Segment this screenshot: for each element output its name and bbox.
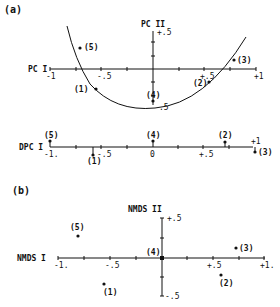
- pc-point-2-label: (2): [193, 79, 207, 88]
- panel-b-label: (b): [12, 185, 30, 196]
- dpc1-tick-p05: +.5: [199, 150, 214, 159]
- dpc-point-4-label: (4): [146, 131, 160, 140]
- nmds-point-3-label: (3): [239, 244, 253, 253]
- nmds1-tick-p1: +1.: [260, 261, 274, 270]
- nmds2-tick-p05: +.5: [167, 214, 182, 223]
- dpc1-tick-0: 0: [150, 150, 155, 159]
- nmds2-tick-m05: -.5: [165, 292, 180, 301]
- nmds-point-3: [234, 246, 237, 249]
- nmds-point-5-label: (5): [70, 223, 84, 232]
- dpc-plot: DPC I -1. -.5 0 +.5 +1 (5) (1) (4) (2) (…: [19, 131, 272, 166]
- dpc-point-2-label: (2): [218, 131, 232, 140]
- pc-point-1: [94, 87, 97, 90]
- pc-plot: PC I -1 -.5 +.5 +1 PC II +.5 .5 (5) (1) …: [28, 20, 264, 112]
- panel-a-label: (a): [4, 4, 22, 15]
- pc1-tick-m05: -.5: [97, 72, 112, 81]
- nmds-point-4-label: (4): [146, 248, 160, 257]
- pc-point-5-label: (5): [84, 43, 98, 52]
- nmds1-tick-p05: +.5: [207, 261, 222, 270]
- dpc-point-3: [253, 150, 256, 153]
- nmds-point-1: [102, 282, 105, 285]
- dpc1-axis-label: DPC I: [19, 143, 43, 152]
- nmds1-axis-label: NMDS I: [17, 254, 46, 263]
- nmds1-tick-m05: -.5: [105, 261, 120, 270]
- pc-point-3-label: (3): [237, 56, 251, 65]
- nmds-point-5: [76, 234, 79, 237]
- nmds-point-4: [160, 256, 164, 260]
- pc1-tick-m1: -1: [46, 72, 56, 81]
- pc-point-2: [207, 80, 210, 83]
- pc2-tick-p05: +.5: [157, 28, 172, 37]
- ordination-figure: (a) PC I -1 -.5 +.5 +1 PC II +.5 .5: [0, 0, 280, 307]
- dpc-point-1-label: (1): [87, 157, 101, 166]
- dpc-point-2: [223, 140, 226, 143]
- nmds-point-1-label: (1): [103, 288, 117, 297]
- dpc-point-5-label: (5): [44, 131, 58, 140]
- nmds-point-2-label: (2): [219, 279, 233, 288]
- pc1-tick-p1: +1: [254, 72, 264, 81]
- pc-point-3: [232, 58, 235, 61]
- nmds1-tick-m1: -1.: [54, 261, 68, 270]
- pc-point-4-label: (4): [146, 91, 160, 100]
- nmds-plot: NMDS I -1. -.5 +.5 +1. NMDS II +.5 -.5 (…: [17, 205, 274, 301]
- dpc-point-3-label: (3): [258, 148, 272, 157]
- pc-point-5: [78, 46, 81, 49]
- pc1-axis-label: PC I: [28, 65, 47, 74]
- pc-point-1-label: (1): [74, 85, 88, 94]
- nmds-point-2: [219, 273, 222, 276]
- dpc1-tick-p1: +1: [251, 137, 261, 146]
- nmds2-axis-label: NMDS II: [128, 205, 162, 214]
- dpc1-tick-m1: -1.: [44, 150, 58, 159]
